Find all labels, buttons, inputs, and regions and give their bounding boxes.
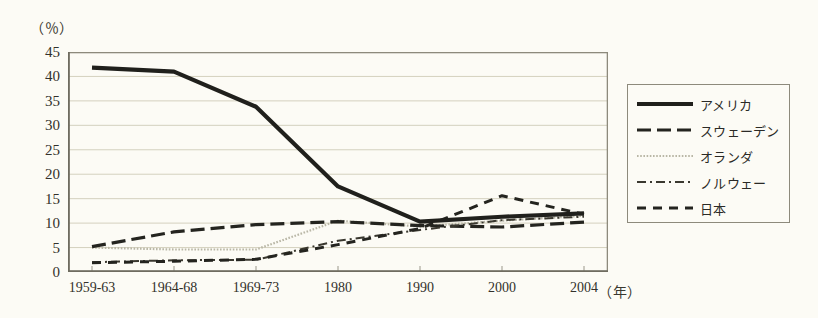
- chart-figure: （％） （年） 051015202530354045 1959-631964-6…: [0, 0, 818, 318]
- y-axis-tick-label: 0: [26, 265, 60, 280]
- y-axis-tick-label: 25: [26, 143, 60, 158]
- y-axis-unit-label: （％）: [30, 17, 74, 37]
- x-axis-tick-label: 1964-68: [151, 281, 198, 295]
- y-axis-tick-label: 5: [26, 241, 60, 256]
- x-axis-tick-label: 2004: [570, 281, 598, 295]
- x-axis-tick-label: 1980: [324, 281, 352, 295]
- legend-item-label: 日本: [700, 199, 727, 218]
- y-axis-tick-label: 45: [26, 45, 60, 60]
- x-axis-tick-label: 2000: [488, 281, 516, 295]
- legend-item-1: アメリカ: [628, 91, 789, 117]
- legend-swatch-icon: [636, 175, 694, 189]
- legend-swatch-icon: [636, 123, 694, 137]
- x-axis-unit-label: （年）: [598, 281, 642, 301]
- y-axis-tick-label: 10: [26, 216, 60, 231]
- y-axis-tick-label: 15: [26, 192, 60, 207]
- plot-area: [68, 52, 608, 272]
- y-axis-tick-label: 40: [26, 69, 60, 84]
- y-axis-tick-label: 20: [26, 167, 60, 182]
- legend-swatch-icon: [636, 201, 694, 215]
- chart-legend: アメリカスウェーデンオランダノルウェー日本: [627, 84, 790, 223]
- legend-item-3: オランダ: [628, 143, 789, 169]
- x-axis-tick-label: 1990: [406, 281, 434, 295]
- y-axis-tick-label: 30: [26, 118, 60, 133]
- legend-swatch-icon: [636, 149, 694, 163]
- legend-item-5: 日本: [628, 195, 789, 221]
- legend-item-2: スウェーデン: [628, 117, 789, 143]
- x-axis-tick-label: 1959-63: [69, 281, 116, 295]
- legend-item-label: スウェーデン: [700, 121, 780, 140]
- legend-item-label: ノルウェー: [700, 173, 767, 192]
- plot-svg: [68, 52, 608, 272]
- y-axis-tick-label: 35: [26, 94, 60, 109]
- legend-item-label: オランダ: [700, 147, 753, 166]
- legend-swatch-icon: [636, 97, 694, 111]
- legend-item-label: アメリカ: [700, 95, 752, 114]
- x-axis-tick-label: 1969-73: [233, 281, 280, 295]
- legend-item-4: ノルウェー: [628, 169, 789, 195]
